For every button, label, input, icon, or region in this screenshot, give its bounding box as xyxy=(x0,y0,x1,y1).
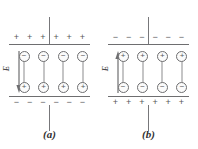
top-plate-line-b xyxy=(108,44,189,45)
dipole-charge-top: − xyxy=(58,51,69,62)
dipole-charge-bottom: − xyxy=(137,82,148,93)
plate-sign: + xyxy=(111,98,120,107)
dipole-charge-bottom: + xyxy=(38,82,49,93)
charge-glyph: + xyxy=(119,52,128,61)
dipole: − + xyxy=(17,51,31,93)
charge-glyph: + xyxy=(39,83,48,92)
charge-glyph: − xyxy=(39,52,48,61)
charge-glyph: − xyxy=(78,52,87,61)
charge-glyph: + xyxy=(177,52,186,61)
plate-sign: − xyxy=(177,33,186,42)
panel-a: + + + + + + E − + xyxy=(0,0,99,149)
charge-glyph: − xyxy=(119,83,128,92)
panel-b: − − − − − − E + − xyxy=(99,0,198,149)
plate-sign: − xyxy=(164,33,173,42)
plate-sign: + xyxy=(177,98,186,107)
plate-sign: + xyxy=(38,33,47,42)
dipole-charge-top: + xyxy=(176,51,187,62)
top-plate-line-a xyxy=(9,44,90,45)
bottom-plate-signs-a: − − − − − − xyxy=(9,97,90,108)
dipole-row-b: + − + − + − xyxy=(116,51,189,93)
dipole-charge-bottom: − xyxy=(157,82,168,93)
field-label-b: E xyxy=(101,66,110,71)
charge-glyph: − xyxy=(177,83,186,92)
plate-sign: + xyxy=(78,33,87,42)
dipole-row-a: − + − + − + xyxy=(17,51,90,93)
plate-sign: − xyxy=(65,98,74,107)
dipole-charge-top: + xyxy=(118,51,129,62)
dipole: − + xyxy=(76,51,90,93)
bottom-plate-signs-b: + + + + + + xyxy=(108,97,189,108)
plate-sign: − xyxy=(78,98,87,107)
charge-glyph: + xyxy=(59,83,68,92)
dipole-charge-bottom: + xyxy=(58,82,69,93)
plate-sign: + xyxy=(52,33,61,42)
plate-sign: + xyxy=(164,98,173,107)
plate-sign: − xyxy=(52,98,61,107)
dipole-charge-bottom: − xyxy=(118,82,129,93)
dipole-charge-top: − xyxy=(77,51,88,62)
charge-glyph: − xyxy=(138,83,147,92)
plate-sign: − xyxy=(124,33,133,42)
dipole: + − xyxy=(116,51,130,93)
plate-sign: + xyxy=(151,98,160,107)
dipole-charge-bottom: + xyxy=(77,82,88,93)
plate-sign: − xyxy=(151,33,160,42)
top-plate-signs-b: − − − − − − xyxy=(108,32,189,43)
charge-glyph: + xyxy=(20,83,29,92)
dipole-charge-bottom: + xyxy=(19,82,30,93)
charge-glyph: + xyxy=(158,52,167,61)
dipole: + − xyxy=(175,51,189,93)
dipole-charge-bottom: − xyxy=(176,82,187,93)
plate-sign: + xyxy=(65,33,74,42)
plate-sign: − xyxy=(12,98,21,107)
dipole-charge-top: − xyxy=(38,51,49,62)
plate-sign: + xyxy=(137,98,146,107)
plate-sign: + xyxy=(25,33,34,42)
plate-sign: − xyxy=(38,98,47,107)
dipole: + − xyxy=(136,51,150,93)
plate-sign: + xyxy=(124,98,133,107)
plate-sign: − xyxy=(111,33,120,42)
dipole: + − xyxy=(155,51,169,93)
charge-glyph: − xyxy=(20,52,29,61)
charge-glyph: + xyxy=(138,52,147,61)
plate-sign: + xyxy=(12,33,21,42)
charge-glyph: − xyxy=(158,83,167,92)
charge-glyph: + xyxy=(78,83,87,92)
plate-sign: − xyxy=(137,33,146,42)
plate-sign: − xyxy=(25,98,34,107)
charge-glyph: − xyxy=(59,52,68,61)
top-plate-signs-a: + + + + + + xyxy=(9,32,90,43)
dipole: − + xyxy=(56,51,70,93)
panel-caption-a: (a) xyxy=(0,128,99,140)
physics-figure-capacitor-dipoles: + + + + + + E − + xyxy=(0,0,198,149)
dipole-charge-top: − xyxy=(19,51,30,62)
dipole-charge-top: + xyxy=(137,51,148,62)
dipole-charge-top: + xyxy=(157,51,168,62)
panel-caption-b: (b) xyxy=(99,128,198,140)
dipole: − + xyxy=(37,51,51,93)
field-label-a: E xyxy=(2,66,11,71)
